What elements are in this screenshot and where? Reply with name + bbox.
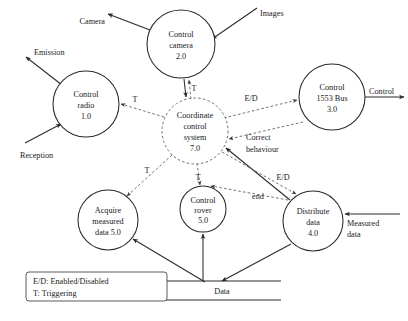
label-reception: Reception [20, 151, 53, 160]
control-process-circle [162, 98, 228, 164]
process-label-line1: Control [319, 83, 345, 92]
process-label-line2: measured [92, 217, 123, 226]
legend-line-t: T: Triggering [33, 289, 77, 298]
process-label-line2: control [183, 122, 207, 131]
label-ed-distribute: E/D [276, 173, 289, 182]
label-measured-data-line1: Measured [347, 219, 379, 228]
label-ed-bus: E/D [244, 94, 257, 103]
legend: E/D: Enabled/Disabled T: Triggering [26, 272, 167, 301]
flow-distribute-to-store [222, 244, 291, 281]
label-control-out: Control [369, 87, 395, 96]
label-t-radio: T [132, 95, 137, 104]
process-label-line1: Control [73, 90, 99, 99]
diagram-canvas: Data Control radio 1.0 Control camera 2.… [0, 0, 408, 321]
process-label-line3: 3.0 [327, 105, 337, 114]
flow-images [212, 8, 257, 39]
flow-camera [108, 14, 150, 30]
process-label-line2: camera [169, 41, 193, 50]
label-correct-behaviour-line2: behaviour [246, 145, 279, 154]
process-control-1553-bus[interactable]: Control 1553 Bus 3.0 [299, 64, 365, 130]
label-camera: Camera [80, 17, 106, 26]
process-control-camera[interactable]: Control camera 2.0 [147, 10, 215, 78]
data-store-label: Data [214, 287, 230, 296]
process-label-line2: data [306, 218, 320, 227]
label-t-acquire: T [144, 166, 149, 175]
process-label-line3: 4.0 [308, 229, 318, 238]
process-label-line4: 7.0 [190, 144, 200, 153]
control-flow-to-bus [224, 100, 297, 118]
process-label-line2: 1553 Bus [316, 94, 347, 103]
process-label-line3: system [184, 133, 207, 142]
data-flow-diagram: Data Control radio 1.0 Control camera 2.… [0, 0, 408, 321]
label-correct-behaviour-line1: Correct [246, 133, 271, 142]
flow-emission [26, 57, 62, 85]
process-label-line1: Coordinate [177, 111, 214, 120]
process-label-line1: Acquire [95, 206, 122, 215]
process-control-radio[interactable]: Control radio 1.0 [53, 71, 119, 137]
label-images: Images [260, 9, 284, 18]
control-flow-to-acquire [127, 155, 172, 196]
process-label-line3: 2.0 [176, 52, 186, 61]
legend-line-ed: E/D: Enabled/Disabled [33, 277, 109, 286]
label-end: end [252, 192, 264, 201]
process-distribute-data[interactable]: Distribute data 4.0 [283, 191, 343, 251]
flow-camera-to-coordinate [184, 79, 186, 97]
process-label-line2: rover [194, 206, 212, 215]
process-label-line1: Control [168, 30, 194, 39]
label-emission: Emission [34, 48, 64, 57]
process-label-line3: 5.0 [198, 216, 208, 225]
process-control-rover[interactable]: Control rover 5.0 [180, 186, 226, 232]
flow-reception [25, 124, 61, 143]
process-label-line1: Distribute [297, 207, 330, 216]
process-label-line3: data 5.0 [95, 228, 121, 237]
label-t-rover: T [195, 173, 200, 182]
control-flow-to-radio [121, 104, 164, 117]
process-label-line1: Control [190, 196, 216, 205]
process-acquire-measured-data[interactable]: Acquire measured data 5.0 [78, 190, 138, 250]
label-measured-data-line2: data [347, 230, 361, 239]
process-label-line3: 1.0 [81, 112, 91, 121]
process-coordinate-control-system[interactable]: Coordinate control system 7.0 [162, 98, 228, 164]
label-t-camera: T [191, 84, 196, 93]
process-label-line2: radio [78, 101, 95, 110]
